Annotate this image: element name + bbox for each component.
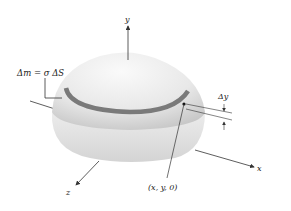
hemisphere-dome (52, 52, 205, 130)
x-axis (195, 150, 254, 167)
y-axis-label: y (124, 15, 130, 24)
z-axis (76, 161, 99, 185)
mass-element-label: Δm = σ ΔS (16, 68, 64, 78)
z-axis-label: z (65, 188, 71, 197)
delta-y-label: Δy (217, 92, 229, 101)
point-label: (x, y, 0) (148, 183, 177, 192)
hemisphere-diagram: y x z Δm = σ ΔS Δy (x, y, 0) (0, 0, 291, 211)
x-axis-back-line (30, 101, 55, 109)
x-axis-label: x (257, 164, 262, 173)
